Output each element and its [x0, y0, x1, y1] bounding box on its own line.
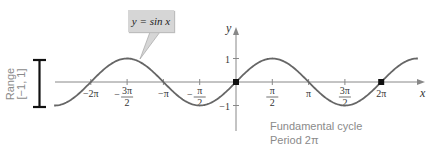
- sine-graph: −2π3π2−−ππ2−π2π3π22π 1−1 x y: [0, 0, 434, 154]
- x-tick-label: 2: [270, 97, 275, 108]
- x-tick-label: π: [306, 88, 311, 99]
- x-tick-label: −2π: [83, 88, 99, 99]
- x-axis-label: x: [419, 86, 426, 100]
- x-tick-label: −: [187, 89, 193, 100]
- x-axis: [55, 79, 425, 85]
- y-tick-label: 1: [225, 54, 230, 65]
- x-tick-label: π: [197, 85, 202, 96]
- cycle-endpoint: [378, 79, 384, 85]
- caption-fundamental-cycle: Fundamental cycle: [270, 119, 362, 133]
- y-axis-label: y: [225, 21, 232, 35]
- cycle-endpoint: [233, 79, 239, 85]
- y-tick-label: −1: [219, 101, 230, 112]
- range-value: [−1, 1]: [16, 68, 27, 100]
- x-tick-label: 2: [125, 97, 130, 108]
- x-tick-label: 3π: [340, 85, 350, 96]
- cycle-caption: Fundamental cycle Period 2π: [270, 119, 362, 147]
- x-tick-label: 2π: [376, 88, 386, 99]
- range-annotation: Range [−1, 1]: [2, 60, 30, 108]
- x-tick-label: 3π: [122, 85, 132, 96]
- x-tick-label: π: [270, 85, 275, 96]
- range-bracket: [33, 60, 46, 107]
- x-tick-label: −: [114, 89, 120, 100]
- function-label: y = sin x: [128, 10, 174, 32]
- label-pointer: [140, 32, 160, 59]
- x-tick-label: −π: [158, 88, 169, 99]
- caption-period: Period 2π: [270, 133, 362, 147]
